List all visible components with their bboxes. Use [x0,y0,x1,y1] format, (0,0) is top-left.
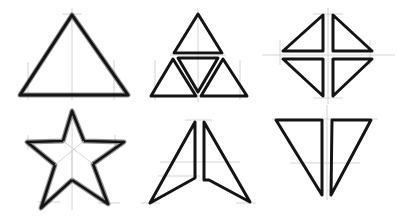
sketch-canvas [0,0,397,224]
shape-split-down-triangle [276,120,371,195]
shape-triforce [151,14,247,96]
shape-star [27,111,124,208]
shape-split-diamond [283,8,372,104]
shape-split-arrowhead [150,122,250,203]
shape-triangle [20,15,128,95]
